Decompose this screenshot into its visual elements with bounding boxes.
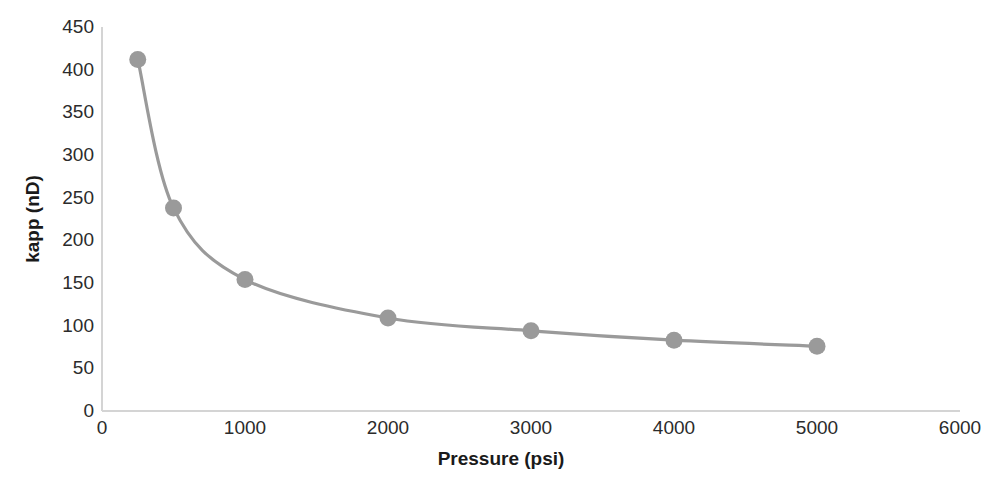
axis-lines bbox=[102, 27, 960, 411]
chart-container: kapp (nD) Pressure (psi) 050100150200250… bbox=[0, 0, 1002, 488]
data-point-marker bbox=[380, 309, 397, 326]
data-point-marker bbox=[129, 51, 146, 68]
data-point-marker bbox=[237, 271, 254, 288]
data-point-markers bbox=[129, 51, 825, 355]
data-point-marker bbox=[809, 338, 826, 355]
plot-area bbox=[0, 0, 1002, 488]
data-series-line bbox=[138, 59, 817, 346]
data-point-marker bbox=[666, 332, 683, 349]
data-point-marker bbox=[165, 199, 182, 216]
data-point-marker bbox=[523, 322, 540, 339]
